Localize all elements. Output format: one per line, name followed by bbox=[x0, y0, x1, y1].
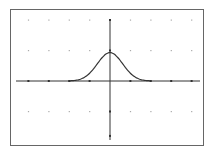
graph-frame bbox=[11, 10, 204, 146]
grid-dot bbox=[171, 50, 172, 51]
calculator-graph-screen bbox=[0, 0, 212, 152]
grid-dot bbox=[89, 50, 90, 51]
grid-dot bbox=[191, 20, 192, 21]
x-tick bbox=[191, 80, 193, 82]
x-tick bbox=[170, 80, 172, 82]
y-tick bbox=[109, 19, 111, 21]
grid-dot bbox=[130, 20, 131, 21]
grid-dot bbox=[89, 111, 90, 112]
grid-dot bbox=[191, 50, 192, 51]
y-tick bbox=[109, 50, 111, 52]
grid-dot bbox=[48, 20, 49, 21]
grid-dot bbox=[48, 50, 49, 51]
grid-dot bbox=[28, 111, 29, 112]
grid-dot bbox=[150, 111, 151, 112]
grid-dot bbox=[130, 50, 131, 51]
y-tick bbox=[109, 135, 111, 137]
grid-dot bbox=[150, 20, 151, 21]
grid-dot bbox=[171, 20, 172, 21]
grid-dot bbox=[48, 111, 49, 112]
x-tick bbox=[27, 80, 29, 82]
grid-dot bbox=[130, 111, 131, 112]
grid-dot bbox=[150, 50, 151, 51]
grid-dot bbox=[28, 50, 29, 51]
grid-dot bbox=[191, 111, 192, 112]
x-tick bbox=[89, 80, 91, 82]
grid-dot bbox=[89, 20, 90, 21]
grid-dot bbox=[28, 20, 29, 21]
y-tick bbox=[109, 111, 111, 113]
x-tick bbox=[129, 80, 131, 82]
grid-dot bbox=[171, 111, 172, 112]
grid-dot bbox=[69, 111, 70, 112]
grid-dot bbox=[69, 20, 70, 21]
x-tick bbox=[48, 80, 50, 82]
grid-dot bbox=[69, 50, 70, 51]
